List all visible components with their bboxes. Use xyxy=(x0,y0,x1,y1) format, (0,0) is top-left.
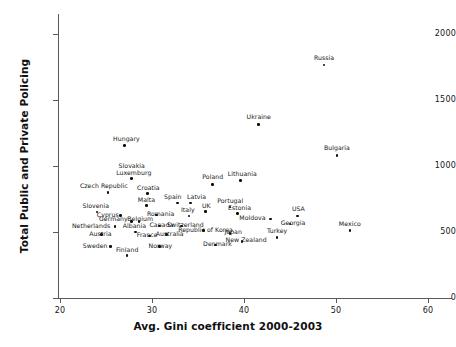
data-point xyxy=(109,245,112,248)
scatter-chart: 0500100015002000 2030405060 RussiaUkrain… xyxy=(0,0,456,347)
data-point-label: Lithuania xyxy=(228,171,257,177)
data-point xyxy=(257,123,260,126)
data-point xyxy=(126,254,129,257)
data-point xyxy=(114,225,117,228)
data-point-label: Hungary xyxy=(113,136,140,142)
data-point-label: Estonia xyxy=(228,205,251,211)
data-point xyxy=(269,218,272,221)
data-point xyxy=(189,202,192,205)
data-point-label: Italy xyxy=(181,207,195,213)
data-point-label: Moldova xyxy=(239,215,265,221)
data-point-label: Turkey xyxy=(267,228,287,234)
data-point-label: USA xyxy=(292,206,305,212)
data-point xyxy=(276,236,279,239)
data-point-label: Sweden xyxy=(83,243,108,249)
data-point xyxy=(130,177,133,180)
data-point xyxy=(188,215,191,218)
data-point-label: Georgia xyxy=(281,220,306,226)
data-point xyxy=(239,179,242,182)
x-axis-title: Avg. Gini coefficient 2000-2003 xyxy=(0,320,456,332)
data-point-label: Albania xyxy=(123,223,146,229)
data-point-label: Czech Republic xyxy=(80,183,128,189)
data-point xyxy=(211,183,214,186)
plot-area: RussiaUkraineBulgariaHungarySlovakiaLuxe… xyxy=(0,0,456,347)
data-point-label: Bulgaria xyxy=(324,145,350,151)
data-point-label: Japan xyxy=(224,229,242,235)
data-point-label: Croatia xyxy=(137,185,160,191)
data-point-label: Norway xyxy=(148,243,172,249)
data-point-label: Denmark xyxy=(203,241,232,247)
data-point xyxy=(123,144,126,147)
data-point-label: Mexico xyxy=(339,221,361,227)
data-point-label: UK xyxy=(202,203,211,209)
data-point xyxy=(336,154,339,157)
data-point-label: Finland xyxy=(116,247,138,253)
data-point xyxy=(349,229,352,232)
data-point-label: Ukraine xyxy=(247,114,271,120)
data-point-label: Latvia xyxy=(187,194,206,200)
data-point xyxy=(176,202,179,205)
data-point-label: Russia xyxy=(314,55,334,61)
data-point-label: Malta xyxy=(138,197,155,203)
data-point-label: France xyxy=(137,232,158,238)
data-point xyxy=(323,64,326,67)
data-point xyxy=(296,215,299,218)
data-point xyxy=(204,210,207,213)
data-point-label: Austria xyxy=(89,231,111,237)
data-point-label: Slovenia xyxy=(82,203,109,209)
data-point-label: Poland xyxy=(202,174,223,180)
data-point-label: Luxemburg xyxy=(116,170,151,176)
data-point-label: Spain xyxy=(164,194,182,200)
data-point xyxy=(145,204,148,207)
data-point xyxy=(107,191,110,194)
data-point-label: Australia xyxy=(156,231,184,237)
data-point-label: Netherlands xyxy=(72,223,110,229)
y-axis-title: Total Public and Private Policing xyxy=(18,36,30,276)
